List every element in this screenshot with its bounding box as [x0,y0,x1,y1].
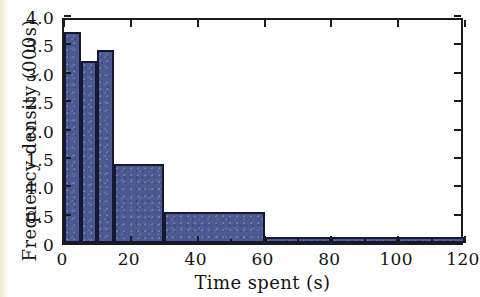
histogram-bar [81,61,98,243]
y-tick-mark-right [454,214,461,216]
y-tick-label: 2.5 [8,93,54,113]
y-tick-mark [64,72,71,74]
x-axis-title: Time spent (s) [62,272,463,293]
histogram-figure: Frequency density (000s) Time spent (s) … [0,0,480,297]
x-tick-mark-top [130,20,132,27]
y-tick-label: 0 [8,235,54,255]
y-tick-label: 2.0 [8,122,54,142]
x-minor-tick-mark [431,239,433,243]
y-tick-mark [64,43,71,45]
y-tick-label: 3.5 [8,36,54,56]
y-tick-mark [64,15,71,17]
x-tick-mark [330,236,332,243]
x-tick-label: 80 [318,249,340,269]
y-tick-label: 3.0 [8,65,54,85]
y-tick-mark-right [454,129,461,131]
x-tick-mark [130,236,132,243]
x-tick-label: 20 [118,249,140,269]
x-tick-mark [264,236,266,243]
x-minor-tick-mark [364,239,366,243]
y-tick-mark [64,129,71,131]
y-tick-label: 4.0 [8,8,54,28]
histogram-bar [114,164,164,243]
x-tick-label: 60 [251,249,273,269]
y-tick-label: 0.5 [8,207,54,227]
x-tick-label: 120 [446,249,479,269]
x-tick-mark-top [397,20,399,27]
x-tick-mark [397,236,399,243]
y-tick-mark [64,157,71,159]
y-tick-mark [64,214,71,216]
histogram-bar [164,212,264,243]
y-tick-mark-right [454,242,461,244]
x-tick-label: 0 [56,249,67,269]
x-minor-tick-mark [230,239,232,243]
x-tick-mark [464,236,466,243]
plot-area [62,18,463,245]
x-minor-tick-mark [297,239,299,243]
y-tick-label: 1.5 [8,150,54,170]
y-tick-mark-right [454,185,461,187]
y-tick-mark [64,185,71,187]
y-tick-mark-right [454,43,461,45]
x-tick-mark [197,236,199,243]
x-tick-label: 100 [379,249,412,269]
y-tick-mark-right [454,72,461,74]
x-minor-tick-mark [96,239,98,243]
y-tick-mark-right [454,100,461,102]
y-tick-mark [64,100,71,102]
x-minor-tick-mark [163,239,165,243]
histogram-bars [64,20,461,243]
y-tick-label: 1.0 [8,178,54,198]
x-tick-mark-top [264,20,266,27]
histogram-bar [64,32,81,243]
x-tick-label: 40 [185,249,207,269]
x-tick-mark-top [464,20,466,27]
x-tick-mark-top [197,20,199,27]
y-tick-mark-right [454,15,461,17]
x-tick-mark-top [330,20,332,27]
y-tick-mark [64,242,71,244]
x-tick-mark-top [63,20,65,27]
y-tick-mark-right [454,157,461,159]
histogram-bar [97,50,114,243]
